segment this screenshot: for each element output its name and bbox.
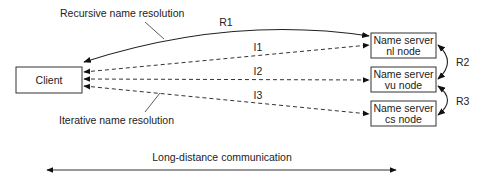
edge-r1 xyxy=(84,30,369,62)
nl-node-subtitle: nl node xyxy=(386,45,421,57)
iterative-annotation: Iterative name resolution xyxy=(59,114,174,126)
client-label: Client xyxy=(36,74,63,86)
vu-node-subtitle: vu node xyxy=(385,79,423,91)
name-server-nl-node: Name server nl node xyxy=(371,33,436,58)
edge-i2-label: I2 xyxy=(254,65,263,77)
edge-r1-label: R1 xyxy=(219,16,233,28)
iterative-leader-line xyxy=(145,93,160,112)
cs-node-subtitle: cs node xyxy=(385,113,422,125)
edge-r2-label: R2 xyxy=(456,56,470,68)
edge-r3 xyxy=(438,86,448,115)
edge-i2 xyxy=(84,79,369,80)
long-distance-label: Long-distance communication xyxy=(152,151,292,163)
edge-i3-label: I3 xyxy=(254,89,263,101)
diagram-svg: Client Name server nl node Name server v… xyxy=(0,0,487,186)
edge-r3-label: R3 xyxy=(456,95,470,107)
diagram-canvas: Client Name server nl node Name server v… xyxy=(0,0,487,186)
recursive-leader-line xyxy=(145,22,164,39)
edge-i3 xyxy=(84,86,369,114)
edge-i1-label: I1 xyxy=(254,41,263,53)
edge-i1 xyxy=(84,45,369,72)
edge-r2 xyxy=(438,45,448,79)
name-server-vu-node: Name server vu node xyxy=(371,67,436,92)
name-server-cs-node: Name server cs node xyxy=(371,101,436,126)
client-node: Client xyxy=(16,67,82,93)
recursive-annotation: Recursive name resolution xyxy=(60,7,184,19)
